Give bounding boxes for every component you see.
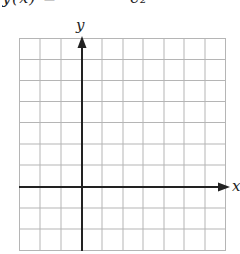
- x-axis-arrow-icon: [218, 183, 230, 192]
- coordinate-grid: y x: [0, 0, 240, 254]
- y-axis-arrow-icon: [78, 36, 87, 48]
- x-axis: [19, 183, 230, 192]
- grid-lines: [19, 38, 226, 251]
- x-axis-label: x: [232, 177, 240, 195]
- y-axis-label: y: [75, 16, 85, 34]
